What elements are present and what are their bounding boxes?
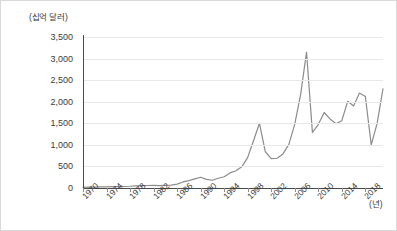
y-tick-label: 2,500 bbox=[29, 75, 73, 85]
gridline bbox=[83, 123, 383, 124]
y-tick-label: 0 bbox=[29, 183, 73, 193]
y-tick-label: 2,000 bbox=[29, 97, 73, 107]
gridline bbox=[83, 166, 383, 167]
y-axis-tick-labels: 3,5003,0002,5002,0001,5001,0005000 bbox=[27, 1, 73, 231]
y-tick-label: 3,000 bbox=[29, 54, 73, 64]
gridline bbox=[83, 59, 383, 60]
gridline bbox=[83, 102, 383, 103]
gridline bbox=[83, 80, 383, 81]
y-tick-label: 3,500 bbox=[29, 32, 73, 42]
x-axis-unit-label: (년) bbox=[369, 197, 383, 209]
y-tick-label: 500 bbox=[29, 161, 73, 171]
gridline bbox=[83, 145, 383, 146]
plot-area bbox=[83, 37, 383, 188]
y-tick-label: 1,500 bbox=[29, 118, 73, 128]
y-axis-line bbox=[83, 35, 84, 189]
chart-container: (십억 달러) 3,5003,0002,5002,0001,5001,00050… bbox=[0, 0, 397, 231]
gridline bbox=[83, 37, 383, 38]
y-tick-label: 1,000 bbox=[29, 140, 73, 150]
line-series-path bbox=[83, 37, 383, 188]
